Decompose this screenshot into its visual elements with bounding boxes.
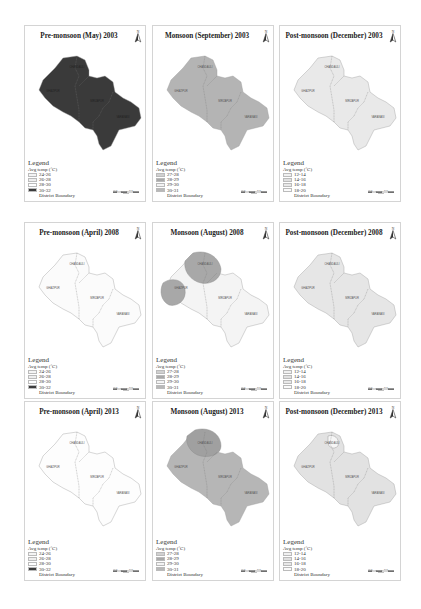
legend-swatch [283, 380, 292, 384]
legend-title: Legend [156, 538, 203, 546]
panel-title: Post-monsoon (December) 2003 [280, 32, 388, 40]
svg-text:GHAZIPUR: GHAZIPUR [174, 465, 188, 469]
map-panel-7: Pre-monsoon (April) 2013 N CHANDAULI GHA… [24, 401, 146, 581]
svg-text:MIRZAPUR: MIRZAPUR [345, 296, 359, 300]
map-panel-8: Monsoon (August) 2013 N CHANDAULI GHAZIP… [152, 401, 274, 581]
svg-text:20 30: 20 30 [129, 569, 133, 570]
map-legend: Legend Avg temp (˚C) 27-2828-2929-3030-3… [156, 159, 203, 198]
legend-swatch [156, 173, 165, 177]
svg-text:GHAZIPUR: GHAZIPUR [174, 89, 188, 93]
panel-title: Pre-monsoon (April) 2008 [25, 229, 133, 237]
svg-text:N: N [392, 30, 395, 34]
district-map: CHANDAULI GHAZIPUR MIRZAPUR VARANASI [282, 422, 400, 540]
legend-swatch [28, 375, 37, 379]
svg-text:N: N [392, 406, 395, 410]
svg-text:CHANDAULI: CHANDAULI [70, 65, 85, 69]
map-legend: Legend Avg temp (˚C) 12-1414-1616-1818-2… [283, 538, 330, 577]
legend-swatch [28, 380, 37, 384]
svg-text:GHAZIPUR: GHAZIPUR [301, 465, 315, 469]
scale-bar-icon: 0 5 1020 30 [113, 189, 139, 195]
legend-swatch [28, 370, 37, 374]
scale-bar-icon: 0 5 1020 30 [368, 386, 394, 392]
svg-text:N: N [265, 227, 268, 231]
svg-text:MIRZAPUR: MIRZAPUR [218, 475, 232, 479]
legend-swatch [156, 375, 165, 379]
svg-text:MIRZAPUR: MIRZAPUR [345, 475, 359, 479]
svg-text:VARANASI: VARANASI [245, 491, 258, 495]
panel-title: Post-monsoon (December) 2008 [280, 229, 388, 237]
legend-swatch [156, 183, 165, 187]
district-map: CHANDAULI GHAZIPUR MIRZAPUR VARANASI [282, 46, 400, 164]
svg-text:0 5 10: 0 5 10 [368, 569, 373, 570]
district-map: CHANDAULI GHAZIPUR MIRZAPUR VARANASI [282, 243, 400, 361]
svg-text:0 5 10: 0 5 10 [241, 569, 246, 570]
map-legend: Legend Avg temp (˚C) 27-2828-2929-3030-3… [156, 538, 203, 577]
svg-text:GHAZIPUR: GHAZIPUR [46, 465, 60, 469]
svg-text:N: N [137, 30, 140, 34]
svg-text:20 30: 20 30 [384, 387, 388, 388]
svg-text:20 30: 20 30 [257, 190, 261, 191]
legend-swatch [28, 178, 37, 182]
north-arrow-icon: N [262, 405, 270, 419]
legend-boundary-label: District Boundary [28, 572, 75, 577]
svg-text:0 5 10: 0 5 10 [368, 190, 373, 191]
map-legend: Legend Avg temp (˚C) 27-2828-2929-3030-3… [156, 356, 203, 395]
legend-swatch [28, 562, 37, 566]
svg-text:MIRZAPUR: MIRZAPUR [345, 99, 359, 103]
north-arrow-icon: N [262, 29, 270, 43]
legend-boundary-label: District Boundary [156, 193, 203, 198]
svg-text:MIRZAPUR: MIRZAPUR [90, 99, 104, 103]
svg-text:CHANDAULI: CHANDAULI [325, 262, 340, 266]
legend-swatch [283, 385, 292, 389]
legend-boundary-label: District Boundary [283, 193, 330, 198]
legend-swatch [156, 178, 165, 182]
svg-text:N: N [137, 406, 140, 410]
svg-text:VARANASI: VARANASI [245, 312, 258, 316]
legend-swatch [283, 183, 292, 187]
north-arrow-icon: N [389, 29, 397, 43]
svg-text:20 30: 20 30 [129, 190, 133, 191]
svg-text:CHANDAULI: CHANDAULI [70, 262, 85, 266]
svg-text:CHANDAULI: CHANDAULI [325, 441, 340, 445]
map-panel-2: Monsoon (September) 2003 N CHANDAULI GHA… [152, 25, 274, 202]
legend-swatch [283, 188, 292, 192]
district-map: CHANDAULI GHAZIPUR MIRZAPUR VARANASI [155, 46, 273, 164]
map-panel-9: Post-monsoon (December) 2013 N CHANDAULI… [279, 401, 401, 581]
svg-text:MIRZAPUR: MIRZAPUR [218, 99, 232, 103]
legend-swatch [283, 178, 292, 182]
svg-text:GHAZIPUR: GHAZIPUR [301, 89, 315, 93]
district-map: CHANDAULI GHAZIPUR MIRZAPUR VARANASI [27, 243, 145, 361]
svg-text:20 30: 20 30 [384, 569, 388, 570]
legend-swatch [283, 567, 292, 571]
north-arrow-icon: N [134, 29, 142, 43]
legend-title: Legend [156, 356, 203, 364]
svg-text:VARANASI: VARANASI [372, 491, 385, 495]
legend-swatch [156, 385, 165, 389]
legend-swatch [156, 552, 165, 556]
scale-bar-icon: 0 5 1020 30 [113, 386, 139, 392]
svg-text:N: N [265, 30, 268, 34]
svg-text:N: N [265, 406, 268, 410]
svg-text:20 30: 20 30 [257, 387, 261, 388]
legend-swatch [156, 380, 165, 384]
panel-title: Monsoon (August) 2013 [153, 408, 261, 416]
svg-text:0 5 10: 0 5 10 [113, 190, 118, 191]
panel-title: Monsoon (September) 2003 [153, 32, 261, 40]
svg-text:VARANASI: VARANASI [117, 491, 130, 495]
legend-swatch [28, 188, 37, 192]
panel-title: Monsoon (August) 2008 [153, 229, 261, 237]
north-arrow-icon: N [262, 226, 270, 240]
svg-text:VARANASI: VARANASI [372, 115, 385, 119]
legend-swatch [283, 557, 292, 561]
legend-boundary-label: District Boundary [28, 390, 75, 395]
legend-swatch [156, 557, 165, 561]
legend-title: Legend [283, 538, 330, 546]
legend-swatch [28, 552, 37, 556]
scale-bar-icon: 0 5 1020 30 [368, 568, 394, 574]
svg-text:N: N [137, 227, 140, 231]
scale-bar-icon: 0 5 1020 30 [241, 386, 267, 392]
svg-text:VARANASI: VARANASI [117, 115, 130, 119]
map-panel-4: Pre-monsoon (April) 2008 N CHANDAULI GHA… [24, 222, 146, 399]
svg-text:MIRZAPUR: MIRZAPUR [90, 475, 104, 479]
legend-boundary-label: District Boundary [28, 193, 75, 198]
